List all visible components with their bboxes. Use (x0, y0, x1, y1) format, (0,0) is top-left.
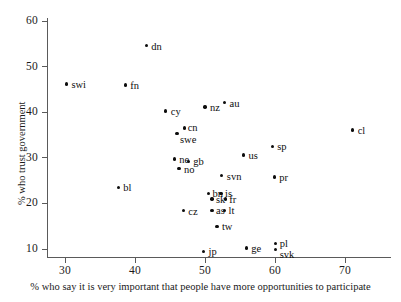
x-tick-mark (275, 258, 276, 263)
data-point (183, 126, 186, 129)
data-point (220, 174, 223, 177)
data-point (274, 242, 277, 245)
data-point-label: fr (229, 195, 236, 206)
x-tick-mark (65, 258, 66, 263)
data-point-label: cz (188, 207, 197, 218)
data-point (223, 101, 226, 104)
data-point-label: fn (130, 81, 139, 92)
data-point (351, 128, 354, 131)
data-point-label: nz (210, 103, 220, 114)
y-tick-label: 60 (14, 14, 38, 26)
y-tick-mark (42, 112, 47, 113)
data-point (271, 145, 274, 148)
data-point-label: svk (280, 250, 295, 261)
data-point-label: tw (222, 222, 233, 233)
data-point (182, 209, 185, 212)
data-point-label: svn (227, 172, 242, 183)
x-tick-mark (205, 258, 206, 263)
data-point (210, 209, 213, 212)
data-point-label: swe (180, 135, 196, 146)
data-point (177, 167, 180, 170)
data-point-label: cn (188, 123, 198, 134)
data-point (65, 82, 68, 85)
data-point-label: gb (193, 157, 204, 168)
x-tick-label: 50 (190, 264, 220, 276)
data-point (210, 197, 213, 200)
data-point (202, 250, 205, 253)
data-point (175, 132, 178, 135)
data-point-label: sp (277, 142, 286, 153)
data-point (203, 105, 206, 108)
data-point-label: ge (251, 244, 261, 255)
data-point (117, 186, 120, 189)
y-tick-label: 50 (14, 60, 38, 72)
plot-area: 1020304050603040506070 swifndnblcyswecnn… (0, 0, 401, 302)
data-point (223, 209, 226, 212)
scatter-plot-figure: 1020304050603040506070 swifndnblcyswecnn… (0, 0, 401, 302)
x-tick-label: 60 (260, 264, 290, 276)
y-axis-label: % who trust government (16, 101, 27, 205)
data-point-label: lt (229, 206, 235, 217)
data-point (173, 157, 176, 160)
data-point-label: jp (209, 247, 217, 258)
y-axis-line (47, 18, 48, 258)
data-point-label: dn (151, 42, 162, 53)
data-point-label: pl (280, 239, 288, 250)
data-point (187, 160, 190, 163)
y-tick-label: 10 (14, 242, 38, 254)
data-point-label: pr (279, 173, 288, 184)
data-point (242, 153, 245, 156)
data-point (224, 197, 227, 200)
x-tick-mark (345, 258, 346, 263)
x-tick-label: 30 (50, 264, 80, 276)
data-point (245, 246, 248, 249)
y-tick-mark (42, 66, 47, 67)
data-point (145, 44, 148, 47)
x-axis-line (47, 257, 391, 258)
x-tick-mark (135, 258, 136, 263)
y-tick-mark (42, 249, 47, 250)
y-tick-mark (42, 203, 47, 204)
data-point (274, 248, 277, 251)
data-point-label: cy (171, 107, 181, 118)
data-point (207, 192, 210, 195)
x-axis-label: % who say it is very important that peop… (0, 281, 401, 292)
data-point-label: bl (123, 183, 131, 194)
data-point (273, 175, 276, 178)
data-point-label: au (230, 99, 240, 110)
x-tick-label: 70 (330, 264, 360, 276)
data-point-label: cl (358, 126, 366, 137)
data-point (164, 109, 167, 112)
data-point (124, 83, 127, 86)
data-point-label: no (184, 165, 195, 176)
data-point-label: us (249, 151, 258, 162)
x-tick-label: 40 (120, 264, 150, 276)
y-tick-mark (42, 21, 47, 22)
data-point (215, 225, 218, 228)
y-tick-mark (42, 157, 47, 158)
data-point-label: swi (71, 80, 86, 91)
